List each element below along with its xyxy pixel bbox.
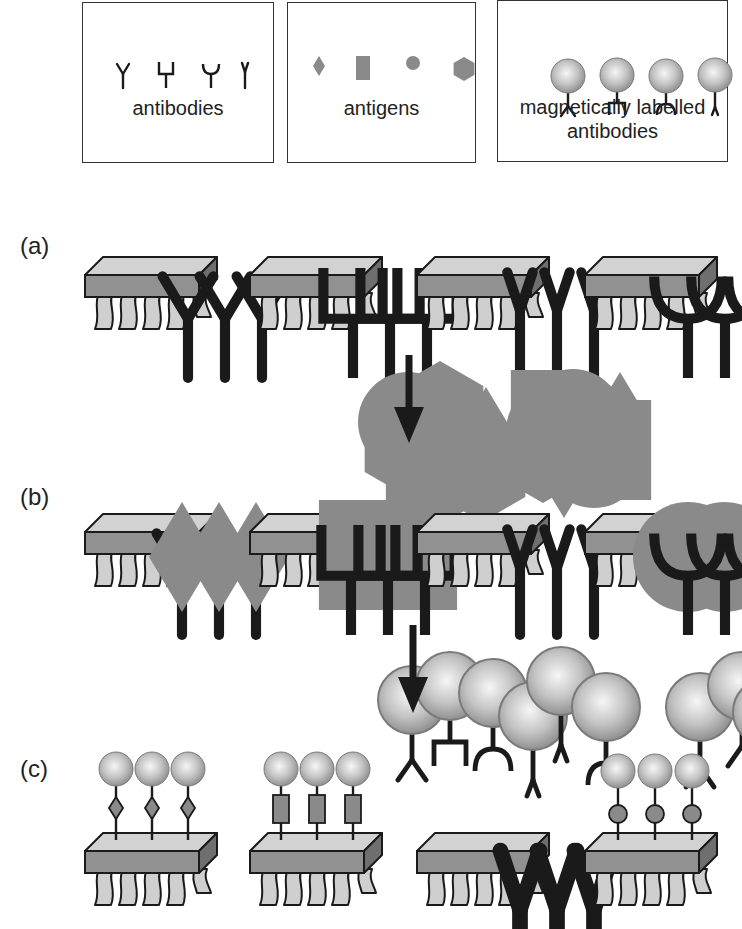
- antibody-y-icon: [107, 36, 123, 62]
- antigen-rectangle-icon: [349, 44, 363, 68]
- sensor-chip-b4: [585, 480, 725, 590]
- down-arrow-icon-step2: [381, 625, 413, 715]
- magnetic-antibody-square-icon: [577, 35, 617, 95]
- sensor-chip-c3: [417, 740, 557, 910]
- magnetic-antibody-y-icon: [528, 36, 568, 96]
- antibody-cup-icon: [193, 36, 211, 62]
- sensor-chip-b2: [250, 480, 390, 590]
- legend-label-antigens: antigens: [288, 97, 475, 120]
- antigen-circle-icon: [399, 49, 413, 63]
- antibody-square-icon: [148, 36, 166, 62]
- sensor-chip-a2: [250, 230, 390, 340]
- antibody-narrow-icon: [235, 36, 245, 62]
- legend-antibodies: antibodies: [82, 2, 274, 163]
- legend-magnetic-antibodies: magnetically labelled antibodies: [497, 0, 728, 162]
- sensor-chip-b1: [85, 480, 225, 590]
- sensor-chip-a3: [417, 230, 557, 340]
- row-label-c: (c): [20, 755, 48, 783]
- antigen-diamond-icon: [307, 46, 319, 66]
- legend-label-magnetic-line1: magnetically labelled: [498, 96, 727, 119]
- sensor-chip-b3: [417, 480, 557, 590]
- row-label-b: (b): [20, 483, 49, 511]
- magnetic-antibody-cup-icon: [626, 36, 666, 96]
- sensor-chip-a4: [585, 230, 725, 340]
- down-arrow-icon-step1: [377, 355, 409, 445]
- magnetic-antibody-narrow-icon: [675, 35, 715, 95]
- row-label-a: (a): [20, 232, 49, 260]
- sensor-chip-c1: [85, 740, 225, 910]
- sensor-chip-c4: [585, 740, 725, 910]
- legend-label-magnetic-line2: antibodies: [498, 120, 727, 143]
- sensor-chip-c2: [250, 740, 390, 910]
- legend-antigens: antigens: [287, 2, 476, 163]
- antigen-hexagon-icon: [442, 43, 464, 69]
- sensor-chip-a1: [85, 230, 225, 340]
- legend-label-antibodies: antibodies: [83, 97, 273, 120]
